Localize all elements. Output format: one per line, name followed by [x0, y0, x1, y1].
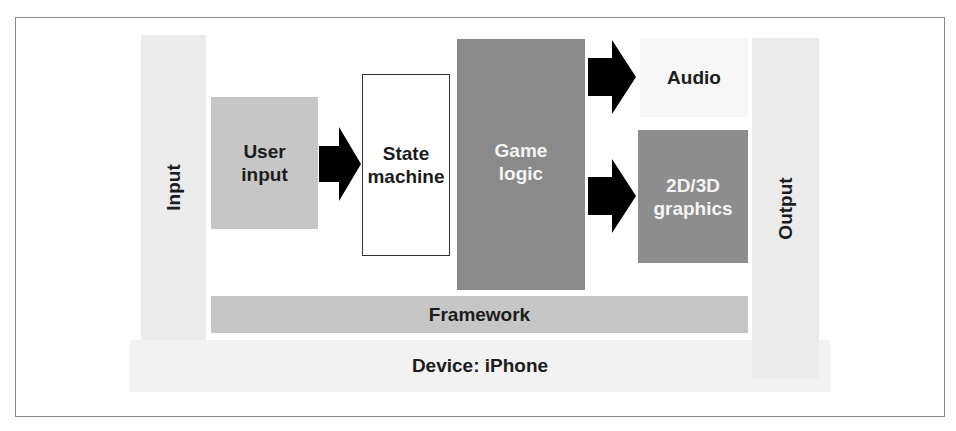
game-logic-label: Game logic: [491, 139, 551, 185]
right-arrow-icon: [588, 159, 636, 233]
output-label: Output: [774, 177, 797, 239]
framework-bar: Framework: [211, 296, 748, 333]
right-arrow-icon: [319, 127, 361, 201]
input-label: Input: [162, 164, 185, 210]
device-band: Device: iPhone: [130, 340, 830, 392]
game-logic-box: Game logic: [457, 39, 585, 290]
user-input-label: User input: [230, 140, 300, 186]
user-input-box: User input: [211, 97, 318, 229]
input-column: Input: [141, 35, 206, 340]
right-arrow-icon: [588, 40, 636, 114]
state-machine-box: State machine: [362, 74, 450, 256]
graphics-box: 2D/3D graphics: [638, 130, 748, 263]
framework-label: Framework: [429, 303, 530, 326]
output-column: Output: [752, 38, 819, 378]
audio-label: Audio: [667, 66, 721, 89]
audio-box: Audio: [640, 38, 748, 117]
device-label: Device: iPhone: [130, 354, 830, 377]
state-machine-label: State machine: [366, 142, 446, 188]
graphics-label: 2D/3D graphics: [653, 174, 733, 220]
